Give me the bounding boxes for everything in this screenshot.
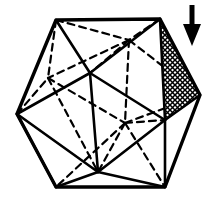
hidden-edge-F-K [17, 78, 48, 114]
edge-B-G [90, 19, 160, 73]
hidden-edge-L-E [56, 123, 125, 187]
arrow-head-icon [183, 24, 201, 46]
edge-F-G [17, 73, 90, 114]
hidden-edge-L-D [125, 123, 165, 187]
edge-D-I [98, 172, 165, 187]
hidden-edge-J-L [125, 40, 129, 123]
downward-arrow [183, 5, 201, 46]
edge-E-I [56, 172, 98, 187]
figure-canvas [0, 0, 218, 200]
edge-F-E [17, 114, 56, 187]
hidden-edge-L-I [98, 123, 125, 172]
edge-H-I [98, 120, 165, 172]
icosahedron-diagram [0, 0, 218, 200]
edge-F-I [17, 114, 98, 172]
